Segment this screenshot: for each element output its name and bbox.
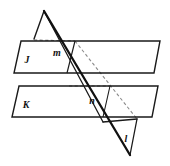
- transversal-line: [44, 11, 130, 155]
- plane-k-label: K: [22, 99, 31, 110]
- line-l-label: l: [125, 133, 128, 144]
- cutting-plane-right-lower-edge: [130, 119, 137, 155]
- plane-j-face: [14, 41, 160, 73]
- line-n-label: n: [89, 95, 95, 106]
- plane-k-face: [12, 86, 158, 117]
- geometry-diagram-svg: J K m n l: [0, 0, 170, 166]
- plane-j-label: J: [24, 54, 31, 65]
- line-m-label: m: [53, 47, 61, 58]
- cutting-plane-left-edge: [34, 11, 44, 39]
- geometry-figure: J K m n l: [0, 0, 170, 166]
